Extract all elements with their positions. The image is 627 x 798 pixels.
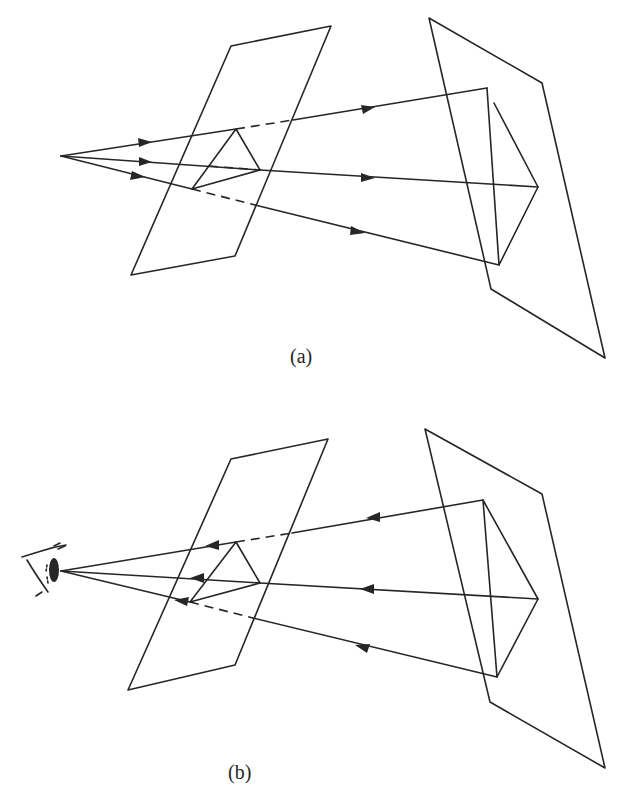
arrow-top-b — [205, 540, 219, 550]
object-triangle-b — [483, 500, 538, 677]
arrow-bot-a — [130, 171, 145, 180]
ray-bot-far-b — [253, 618, 497, 677]
arrow-bot-far-b — [355, 644, 370, 653]
object-plane-b — [425, 429, 605, 768]
eye-icon — [22, 543, 66, 596]
picture-plane-b — [128, 439, 328, 690]
panel-b: (b) — [22, 429, 605, 784]
ray-top-far-b — [292, 500, 483, 533]
image-triangle-a — [192, 129, 260, 189]
ray-bot-hidden-a — [192, 189, 255, 205]
arrow-mid-a — [139, 157, 152, 166]
ray-bot-hidden-b — [190, 602, 253, 618]
ray-bot-far-a — [255, 205, 499, 265]
ray-top-hidden-a — [236, 120, 293, 129]
projection-diagram: (a) (b) — [0, 0, 627, 798]
ray-mid-b — [61, 571, 260, 583]
image-triangle-b — [190, 542, 260, 602]
ray-top-hidden-b — [236, 533, 292, 542]
ray-mid-far-a — [260, 170, 538, 187]
arrow-mid-far-a — [361, 173, 375, 182]
arrow-bot-far-a — [350, 226, 365, 235]
object-plane-a — [429, 18, 605, 358]
arrow-mid-b — [190, 573, 204, 583]
picture-plane-a — [131, 26, 331, 275]
caption-b: (b) — [228, 761, 251, 784]
panel-a: (a) — [61, 18, 605, 368]
ray-top-far-a — [293, 88, 487, 120]
caption-a: (a) — [290, 345, 312, 368]
arrow-mid-far-b — [360, 584, 374, 594]
arrow-top-a — [138, 138, 152, 147]
object-triangle-a — [487, 88, 538, 265]
ray-mid-far-b — [260, 583, 538, 599]
